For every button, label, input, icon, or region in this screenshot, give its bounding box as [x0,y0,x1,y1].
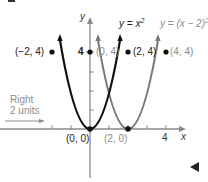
y-axis [86,17,94,178]
equation-base-exponent: 2 [140,17,144,24]
y-axis-label: y [80,11,85,22]
gray-curve-right-arrow-icon [155,34,160,41]
point-2-0 [125,126,131,132]
label-point-neg2-4: (−2, 4) [15,46,44,57]
point-neg2-4 [49,49,54,54]
point-4-4 [163,49,168,54]
label-point-origin: (0, 0) [66,133,89,144]
x-axis-label: x [181,131,186,142]
label-point-0-4: (0, 4) [96,46,119,57]
shift-label-line2: 2 units [10,105,39,116]
equation-shifted-text: y = (x − 2) [160,18,205,29]
equation-shifted: y = (x − 2)2 [160,17,208,29]
previous-triangle-icon[interactable] [190,162,199,172]
gray-curve-left-arrow-icon [95,34,100,41]
black-curve-left-arrow-icon [57,34,62,41]
black-curve-right-arrow-icon [117,34,122,41]
label-point-2-0: (2, 0) [104,133,127,144]
label-point-2-4: (2, 4) [133,46,156,57]
label-point-4-4: (4, 4) [170,46,193,57]
equation-shifted-exponent: 2 [205,17,208,24]
shift-arrow-head-icon [39,119,45,123]
equation-base-text: y = x [119,18,140,29]
tick-label-x4: 4 [162,132,168,143]
equation-base: y = x2 [119,17,144,29]
point-origin [87,126,93,132]
point-0-4 [87,49,92,54]
y-axis-arrow-icon [87,17,93,24]
shift-label-line1: Right [10,94,33,105]
cropped-label-fragment [8,0,15,2]
point-2-4 [125,49,130,54]
tick-label-y4: 4 [78,46,84,57]
